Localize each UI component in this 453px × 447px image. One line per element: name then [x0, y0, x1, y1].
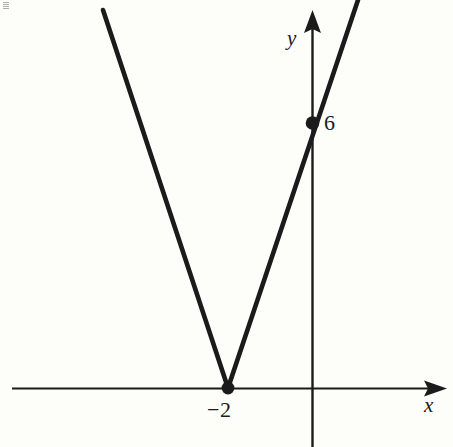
y-intercept-point-marker	[306, 116, 320, 130]
vertex-point-marker	[222, 382, 235, 395]
graph-left-branch	[103, 10, 228, 388]
absolute-value-graph-figure: y x 6 −2	[0, 0, 453, 447]
vertex-x-value-label: −2	[207, 399, 231, 421]
graph-right-branch	[228, 0, 358, 388]
x-axis-label: x	[424, 395, 433, 416]
y-intercept-value-label: 6	[324, 112, 335, 134]
y-axis-label: y	[287, 28, 296, 49]
graph-canvas	[0, 0, 453, 447]
